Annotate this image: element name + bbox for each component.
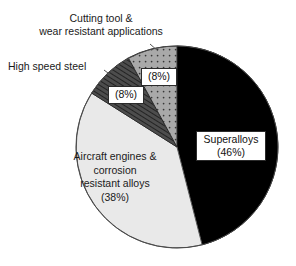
label-cutting-tool-line1: Cutting tool & — [22, 12, 180, 25]
label-aircraft-engines: Aircraft engines & corrosion resistant a… — [56, 150, 174, 204]
callout-superalloys-value: (46%) — [202, 146, 260, 159]
label-cutting-tool-line2: wear resistant applications — [22, 25, 180, 38]
label-high-speed-steel-text: High speed steel — [8, 60, 112, 73]
callout-superalloys-name: Superalloys — [202, 133, 260, 146]
label-high-speed-steel: High speed steel — [8, 60, 112, 73]
callout-superalloys: Superalloys (46%) — [196, 131, 266, 161]
callout-high-speed-steel-value: (8%) — [108, 86, 144, 104]
label-aircraft-line3: resistant alloys — [56, 177, 174, 191]
label-aircraft-value: (38%) — [56, 191, 174, 205]
label-aircraft-line1: Aircraft engines & — [56, 150, 174, 164]
callout-cutting-tool-value: (8%) — [141, 68, 177, 86]
pie-chart: Cutting tool & wear resistant applicatio… — [0, 0, 296, 266]
label-cutting-tool: Cutting tool & wear resistant applicatio… — [22, 12, 180, 38]
label-aircraft-line2: corrosion — [56, 164, 174, 178]
